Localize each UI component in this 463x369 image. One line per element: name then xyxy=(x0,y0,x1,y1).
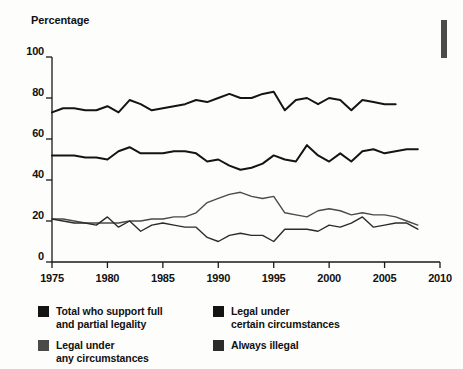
x-tick-label: 1990 xyxy=(198,272,238,284)
chart-figure: Percentage 020406080100 1975198019851990… xyxy=(0,0,463,369)
series-lines xyxy=(52,92,418,242)
x-tick-label: 2005 xyxy=(365,272,405,284)
x-tick-label: 1985 xyxy=(143,272,183,284)
y-tick-label: 100 xyxy=(16,45,44,57)
chart-legend: Total who support full and partial legal… xyxy=(38,305,438,369)
legend-label: Legal under certain circumstances xyxy=(231,305,340,330)
x-tick-label: 2000 xyxy=(309,272,349,284)
y-tick-label: 60 xyxy=(16,127,44,139)
legend-swatch-icon xyxy=(213,306,224,317)
y-tick-label: 80 xyxy=(16,86,44,98)
series-line xyxy=(52,145,418,170)
y-tick-label: 40 xyxy=(16,168,44,180)
legend-label: Legal under any circumstances xyxy=(56,339,149,364)
x-tick-label: 1995 xyxy=(254,272,294,284)
legend-item[interactable]: Legal under certain circumstances xyxy=(213,305,340,330)
legend-item[interactable]: Total who support full and partial legal… xyxy=(38,305,163,330)
x-tick-label: 1975 xyxy=(32,272,72,284)
legend-swatch-icon xyxy=(38,340,49,351)
y-tick-label: 20 xyxy=(16,209,44,221)
legend-swatch-icon xyxy=(38,306,49,317)
legend-item[interactable]: Always illegal xyxy=(213,339,298,352)
legend-item[interactable]: Legal under any circumstances xyxy=(38,339,149,364)
series-line xyxy=(52,217,418,242)
series-line xyxy=(52,92,396,113)
legend-label: Always illegal xyxy=(231,339,298,352)
x-tick-label: 2010 xyxy=(420,272,460,284)
series-line xyxy=(52,192,418,225)
x-tick-label: 1980 xyxy=(87,272,127,284)
legend-swatch-icon xyxy=(213,340,224,351)
axis-lines xyxy=(46,57,440,268)
legend-label: Total who support full and partial legal… xyxy=(56,305,163,330)
y-tick-label: 0 xyxy=(16,250,44,262)
